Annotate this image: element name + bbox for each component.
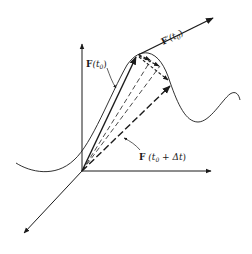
leader-f-t0-plus-dt (124, 138, 140, 150)
secant-arrow-3 (139, 57, 168, 80)
vector-derivative-diagram: F(t0) F′(t0) F (t0 + Δt) (0, 0, 252, 254)
axes (24, 44, 211, 233)
label-f-t0-plus-dt: F (t0 + Δt) (139, 152, 186, 163)
label-f-prime-t0: F′(t0) (159, 28, 184, 48)
leader-f-t0 (107, 68, 116, 88)
label-f-t0: F(t0) (86, 59, 107, 70)
x-axis (24, 171, 82, 233)
space-curve (16, 53, 240, 172)
